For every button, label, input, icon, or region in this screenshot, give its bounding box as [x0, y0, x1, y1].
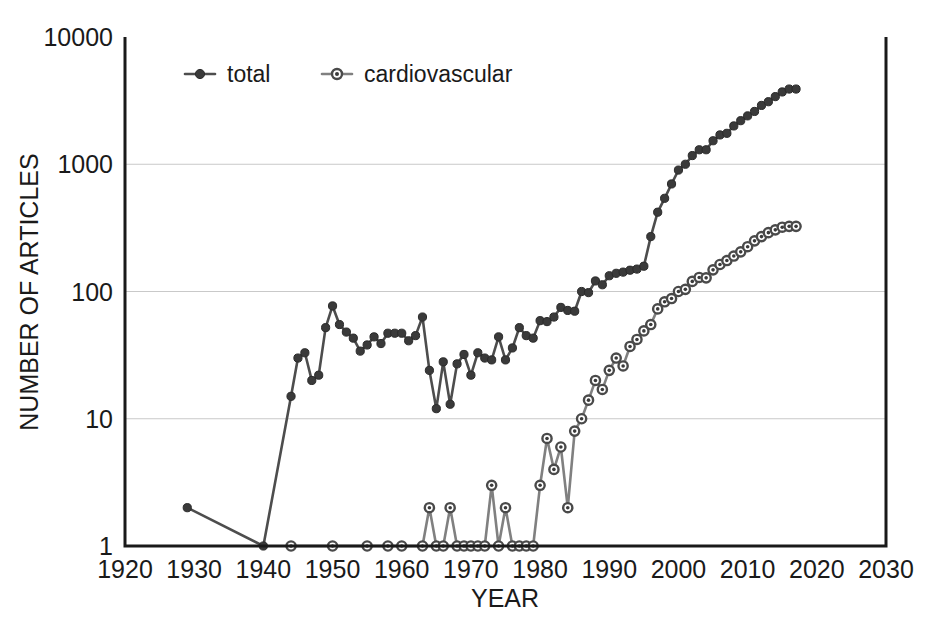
- data-point-center: [649, 323, 653, 327]
- data-point-center: [760, 235, 764, 239]
- data-point-center: [601, 388, 605, 392]
- data-point: [584, 289, 592, 297]
- data-point: [349, 334, 357, 342]
- data-point-center: [552, 468, 556, 472]
- x-tick-label-1950: 1950: [305, 555, 361, 583]
- y-axis-title: NUMBER OF ARTICLES: [15, 153, 43, 430]
- legend-marker-total: [195, 69, 204, 78]
- data-point-center: [490, 483, 494, 487]
- legend-marker-center-cardiovascular: [335, 72, 339, 76]
- data-point-center: [753, 239, 757, 243]
- data-point: [792, 85, 800, 93]
- legend-item-cardiovascular[interactable]: cardiovascular: [322, 61, 513, 87]
- data-point-center: [767, 231, 771, 235]
- data-point: [501, 356, 509, 364]
- series-line-cardiovascular: [291, 226, 796, 546]
- x-tick-label-1920: 1920: [97, 555, 153, 583]
- data-point: [550, 313, 558, 321]
- data-point: [453, 360, 461, 368]
- data-point-center: [635, 338, 639, 342]
- data-point-center: [448, 506, 452, 510]
- x-tick-label-2030: 2030: [858, 555, 914, 583]
- series-layer: [183, 85, 801, 551]
- data-point-center: [690, 280, 694, 284]
- data-point: [356, 347, 364, 355]
- data-point-center: [732, 254, 736, 258]
- data-point: [647, 233, 655, 241]
- x-tick-label-1980: 1980: [512, 555, 568, 583]
- data-point-center: [704, 276, 708, 280]
- data-point: [688, 151, 696, 159]
- x-tick-label-2020: 2020: [789, 555, 845, 583]
- legend-label-total: total: [227, 61, 270, 87]
- data-point-center: [594, 379, 598, 383]
- data-point-center: [573, 429, 577, 433]
- data-point: [667, 180, 675, 188]
- y-tick-label-100: 100: [71, 278, 113, 306]
- data-point-center: [739, 250, 743, 254]
- data-point-center: [670, 297, 674, 301]
- data-point-center: [774, 228, 778, 232]
- y-tick-label-10: 10: [85, 405, 113, 433]
- data-point: [377, 339, 385, 347]
- data-point: [750, 107, 758, 115]
- data-point: [529, 334, 537, 342]
- data-point-center: [614, 356, 618, 360]
- chart-legend: totalcardiovascular: [185, 61, 513, 87]
- data-point: [398, 329, 406, 337]
- x-axis-title: YEAR: [471, 584, 539, 612]
- legend-label-cardiovascular: cardiovascular: [364, 61, 513, 87]
- data-point: [328, 302, 336, 310]
- data-point: [411, 332, 419, 340]
- data-point: [363, 341, 371, 349]
- legend-item-total[interactable]: total: [185, 61, 270, 87]
- data-point-center: [566, 506, 570, 510]
- data-point: [370, 333, 378, 341]
- data-point: [702, 146, 710, 154]
- data-point-center: [642, 329, 646, 333]
- x-tick-label-1940: 1940: [236, 555, 292, 583]
- data-point: [342, 328, 350, 336]
- y-tick-label-1000: 1000: [57, 150, 113, 178]
- data-point-center: [663, 300, 667, 304]
- data-point-center: [559, 445, 563, 449]
- data-point-center: [504, 506, 508, 510]
- gridlines: [125, 164, 886, 419]
- x-tick-label-1930: 1930: [166, 555, 222, 583]
- data-point: [294, 354, 302, 362]
- data-point: [515, 324, 523, 332]
- data-point: [723, 129, 731, 137]
- data-point-center: [718, 263, 722, 267]
- data-point-center: [711, 268, 715, 272]
- data-point: [681, 160, 689, 168]
- x-tick-label-1970: 1970: [443, 555, 499, 583]
- data-point: [439, 358, 447, 366]
- x-tick-label-2010: 2010: [720, 555, 776, 583]
- data-point-center: [545, 437, 549, 441]
- y-tick-labels: 110100100010000: [43, 23, 113, 560]
- data-point: [730, 122, 738, 130]
- data-point-center: [538, 483, 542, 487]
- data-point: [640, 262, 648, 270]
- data-point: [654, 208, 662, 216]
- data-point-center: [428, 506, 432, 510]
- y-tick-label-10000: 10000: [43, 23, 113, 51]
- data-point: [508, 344, 516, 352]
- data-point: [571, 307, 579, 315]
- data-point-center: [725, 259, 729, 263]
- data-point-center: [656, 307, 660, 311]
- data-point: [598, 281, 606, 289]
- data-point: [183, 504, 191, 512]
- data-point: [315, 371, 323, 379]
- data-point: [488, 356, 496, 364]
- data-point: [308, 376, 316, 384]
- data-point: [674, 166, 682, 174]
- series-line-total: [187, 89, 796, 546]
- data-point: [418, 313, 426, 321]
- data-point: [460, 350, 468, 358]
- x-tick-label-2000: 2000: [651, 555, 707, 583]
- data-point-center: [607, 369, 611, 373]
- data-point-center: [587, 398, 591, 402]
- x-tick-label-1990: 1990: [581, 555, 637, 583]
- data-point: [432, 405, 440, 413]
